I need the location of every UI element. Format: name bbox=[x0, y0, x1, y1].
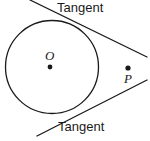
center-point-dot bbox=[48, 65, 53, 70]
center-label-o: O bbox=[45, 49, 54, 62]
external-point-label-p: P bbox=[124, 72, 132, 85]
geometry-figure: Tangent Tangent O P bbox=[0, 0, 150, 141]
tangent-label-bottom: Tangent bbox=[58, 120, 104, 133]
external-point-dot bbox=[125, 65, 130, 70]
tangent-label-top: Tangent bbox=[57, 1, 103, 14]
